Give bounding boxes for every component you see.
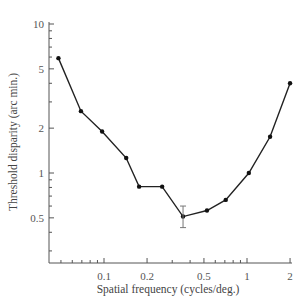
plot-area xyxy=(56,56,292,228)
y-tick-label: 1 xyxy=(39,167,45,179)
data-point xyxy=(56,56,60,60)
data-point xyxy=(100,129,104,133)
data-point xyxy=(79,109,83,113)
data-point xyxy=(268,135,272,139)
x-tick-label: 0.2 xyxy=(140,270,154,282)
y-tick-label: 10 xyxy=(33,18,45,30)
data-point xyxy=(288,81,292,85)
x-tick-label: 0.1 xyxy=(97,270,111,282)
chart: 0.10.20.5120.512510 Spatial frequency (c… xyxy=(0,0,304,303)
y-tick-label: 5 xyxy=(39,63,45,75)
data-point xyxy=(160,184,164,188)
x-axis-label: Spatial frequency (cycles/deg.) xyxy=(97,283,240,296)
x-tick-label: 1 xyxy=(244,270,250,282)
data-point xyxy=(224,198,228,202)
data-point xyxy=(124,156,128,160)
y-tick-label: 0.5 xyxy=(30,212,44,224)
axes: 0.10.20.5120.512510 xyxy=(30,18,293,282)
data-line xyxy=(58,58,290,216)
x-tick-label: 0.5 xyxy=(197,270,211,282)
x-tick-label: 2 xyxy=(287,270,293,282)
y-tick-label: 2 xyxy=(39,122,45,134)
data-point xyxy=(205,208,209,212)
data-point xyxy=(137,184,141,188)
data-point xyxy=(247,171,251,175)
y-axis-label: Threshold disparity (arc min.) xyxy=(7,73,20,211)
